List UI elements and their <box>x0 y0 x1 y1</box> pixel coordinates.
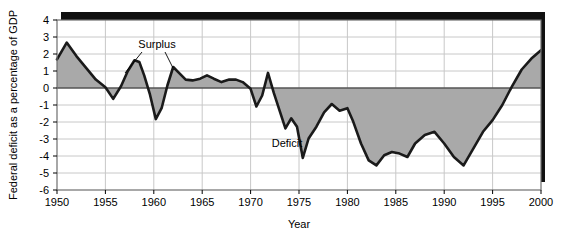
x-tick-label: 1950 <box>45 196 69 208</box>
y-tick-label: -6 <box>39 184 49 196</box>
y-tick-label: -5 <box>39 167 49 179</box>
y-tick-label: -2 <box>39 116 49 128</box>
deficit-annotation-label: Deficit <box>272 137 303 149</box>
y-tick-label: -4 <box>39 150 49 162</box>
y-tick-label: 4 <box>43 14 49 26</box>
x-tick-label: 1965 <box>190 196 214 208</box>
x-tick-label: 1980 <box>335 196 359 208</box>
y-tick-label: 1 <box>43 65 49 77</box>
x-axis-tick-labels: 1950 1955 1960 1965 1970 1975 1980 1985 … <box>45 196 553 208</box>
y-tick-label: -3 <box>39 133 49 145</box>
x-tick-label: 1955 <box>93 196 117 208</box>
y-tick-label: -1 <box>39 99 49 111</box>
x-tick-label: 1985 <box>384 196 408 208</box>
x-tick-label: 1975 <box>287 196 311 208</box>
y-axis-title: Federal deficit as a percentage of GDP <box>7 10 19 200</box>
y-tick-label: 0 <box>43 82 49 94</box>
y-axis-tick-labels: 4 3 2 1 0 -1 -2 -3 -4 -5 -6 <box>39 14 49 196</box>
x-tick-label: 1990 <box>432 196 456 208</box>
x-tick-label: 1960 <box>142 196 166 208</box>
x-axis-ticks <box>57 190 541 194</box>
y-tick-label: 2 <box>43 48 49 60</box>
surplus-annotation-label: Surplus <box>138 38 176 50</box>
chart-figure: 4 3 2 1 0 -1 -2 -3 -4 -5 -6 <box>0 0 571 239</box>
x-tick-label: 2000 <box>529 196 553 208</box>
x-tick-label: 1970 <box>238 196 262 208</box>
x-axis-title: Year <box>288 218 311 230</box>
deficit-annotation: Deficit <box>272 137 303 149</box>
y-tick-label: 3 <box>43 31 49 43</box>
federal-deficit-area-chart: 4 3 2 1 0 -1 -2 -3 -4 -5 -6 <box>0 0 571 239</box>
x-tick-label: 1995 <box>480 196 504 208</box>
